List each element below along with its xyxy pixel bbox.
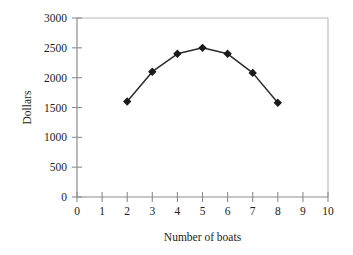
y-axis-tick-labels: 3000 2500 2000 1500 1000 500 0 <box>44 12 67 203</box>
x-tick-label: 8 <box>275 205 281 217</box>
x-tick-label: 7 <box>250 205 256 217</box>
x-tick-label: 9 <box>300 205 306 217</box>
x-tick-label: 5 <box>200 205 206 217</box>
chart-container: 3000 2500 2000 1500 1000 500 0 0 1 2 <box>0 0 353 255</box>
y-tick-label: 1500 <box>44 102 67 114</box>
y-tick-label: 2500 <box>44 42 67 54</box>
x-tick-label: 6 <box>225 205 231 217</box>
y-tick-label: 500 <box>50 161 68 173</box>
x-tick-label: 3 <box>149 205 155 217</box>
x-tick-label: 0 <box>74 205 80 217</box>
y-axis-title: Dollars <box>21 90 33 124</box>
line-chart: 3000 2500 2000 1500 1000 500 0 0 1 2 <box>0 0 353 255</box>
y-tick-label: 2000 <box>44 72 67 84</box>
x-tick-label: 1 <box>99 205 105 217</box>
x-tick-label: 10 <box>322 205 334 217</box>
x-tick-label: 4 <box>175 205 181 217</box>
x-tick-label: 2 <box>124 205 130 217</box>
y-tick-label: 3000 <box>44 12 67 24</box>
y-tick-label: 0 <box>61 191 67 203</box>
y-tick-label: 1000 <box>44 131 67 143</box>
x-axis-title: Number of boats <box>164 231 242 243</box>
x-axis-tick-labels: 0 1 2 3 4 5 6 7 8 9 10 <box>74 205 334 217</box>
